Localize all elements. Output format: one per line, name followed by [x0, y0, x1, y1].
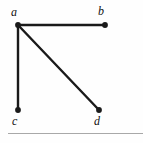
node-label-b: b — [98, 5, 104, 17]
graph-figure: a b c d — [0, 0, 143, 143]
node-d — [96, 107, 102, 113]
edge-a-d — [18, 25, 99, 110]
node-label-c: c — [12, 115, 17, 127]
node-a — [15, 22, 21, 28]
edge-group — [18, 25, 105, 110]
node-label-d: d — [94, 115, 100, 127]
node-b — [102, 22, 108, 28]
node-c — [15, 107, 21, 113]
node-label-a: a — [11, 6, 17, 18]
graph-canvas — [0, 0, 143, 143]
footer-divider — [8, 133, 143, 134]
